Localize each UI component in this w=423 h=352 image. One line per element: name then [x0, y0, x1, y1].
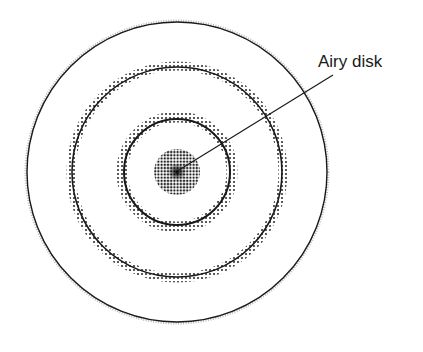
airy-disk-label: Airy disk: [318, 52, 382, 72]
airy-disk: [154, 149, 200, 195]
